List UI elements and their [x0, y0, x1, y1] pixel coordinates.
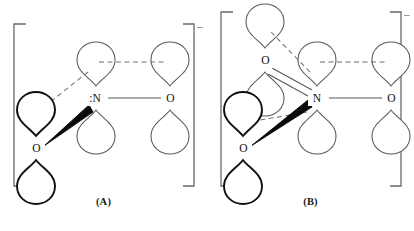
atom-label-nitrogen-b: N: [308, 90, 326, 106]
atom-label-oxygen-upperleft-b: O: [257, 52, 274, 68]
p-orbital-oxygen-frontleft-upper-a: [17, 92, 55, 136]
svg-text:N: N: [313, 92, 322, 104]
svg-text:O: O: [166, 92, 174, 104]
svg-text:O: O: [261, 54, 269, 66]
svg-text::N: :N: [89, 92, 101, 104]
p-orbital-nitrogen-upper-a: [77, 42, 115, 86]
caption-a: (A): [0, 196, 207, 207]
charge-sign-b: –: [404, 8, 410, 20]
atom-label-oxygen-right-a: O: [162, 90, 179, 106]
svg-text:O: O: [387, 92, 395, 104]
resonance-structure-b: O N O O – (B): [207, 0, 414, 231]
atom-label-oxygen-frontleft-a: O: [28, 140, 45, 156]
resonance-structure-a: :N O O – (A): [0, 0, 207, 231]
atom-label-oxygen-frontleft-b: O: [235, 140, 252, 156]
svg-text:O: O: [32, 142, 40, 154]
p-orbital-oxygen-frontleft-upper-b: [224, 92, 262, 136]
svg-text:O: O: [239, 142, 247, 154]
p-orbital-oxygen-right-lower-a: [151, 110, 189, 154]
p-orbital-nitrogen-upper-b: [298, 42, 336, 86]
p-orbital-oxygen-right-upper-a: [151, 42, 189, 86]
p-orbital-oxygen-right-upper-b: [372, 42, 410, 86]
p-orbital-oxygen-right-lower-b: [372, 110, 410, 154]
p-orbital-oxygen-upperleft-upper-b: [246, 4, 284, 48]
resonance-figure: :N O O – (A): [0, 0, 414, 231]
atom-label-nitrogen-a: :N: [82, 90, 108, 106]
charge-sign-a: –: [197, 20, 203, 32]
caption-b: (B): [207, 196, 414, 207]
p-orbital-nitrogen-lower-b: [298, 110, 336, 154]
atom-label-oxygen-right-b: O: [383, 90, 400, 106]
